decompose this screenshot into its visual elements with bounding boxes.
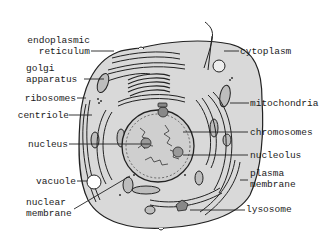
label-line: endoplasmic — [27, 35, 90, 46]
label-nucleolus: nucleolus — [250, 150, 301, 161]
label-line: lysosome — [246, 204, 292, 215]
label-line: mitochondria — [250, 98, 318, 109]
label-line: nucleus — [28, 139, 68, 150]
label-lysosome: lysosome — [246, 204, 292, 215]
label-cytoplasm: cytoplasm — [240, 46, 291, 57]
label-vacuole: vacuole — [36, 176, 76, 187]
label-chromosomes: chromosomes — [250, 127, 313, 138]
label-mitochondria: mitochondria — [250, 98, 318, 109]
vacuole-shape — [87, 175, 101, 189]
centriole-shape — [158, 103, 168, 117]
label-line: plasma — [250, 168, 296, 179]
label-line: apparatus — [26, 74, 77, 85]
label-line: nucleolus — [250, 150, 301, 161]
label-line: vacuole — [36, 176, 76, 187]
label-nucleus: nucleus — [28, 139, 68, 150]
label-line: centriole — [18, 110, 69, 121]
label-line: ribosomes — [25, 93, 76, 104]
label-plasma-membrane: plasma membrane — [250, 168, 296, 190]
cell-diagram: endoplasmic reticulum golgi apparatus ri… — [0, 0, 332, 244]
nucleolus-shape — [173, 147, 183, 157]
label-line: reticulum — [27, 46, 90, 57]
label-ribosomes: ribosomes — [25, 93, 76, 104]
label-line: cytoplasm — [240, 46, 291, 57]
label-centriole: centriole — [18, 110, 69, 121]
label-line: membrane — [26, 208, 72, 219]
label-golgi-apparatus: golgi apparatus — [26, 63, 77, 85]
label-nuclear-membrane: nuclear membrane — [26, 197, 72, 219]
label-line: golgi — [26, 63, 77, 74]
label-endoplasmic-reticulum: endoplasmic reticulum — [27, 35, 90, 57]
nucleus-shape — [122, 110, 194, 182]
label-line: chromosomes — [250, 127, 313, 138]
label-line: nuclear — [26, 197, 72, 208]
label-line: membrane — [250, 179, 296, 190]
